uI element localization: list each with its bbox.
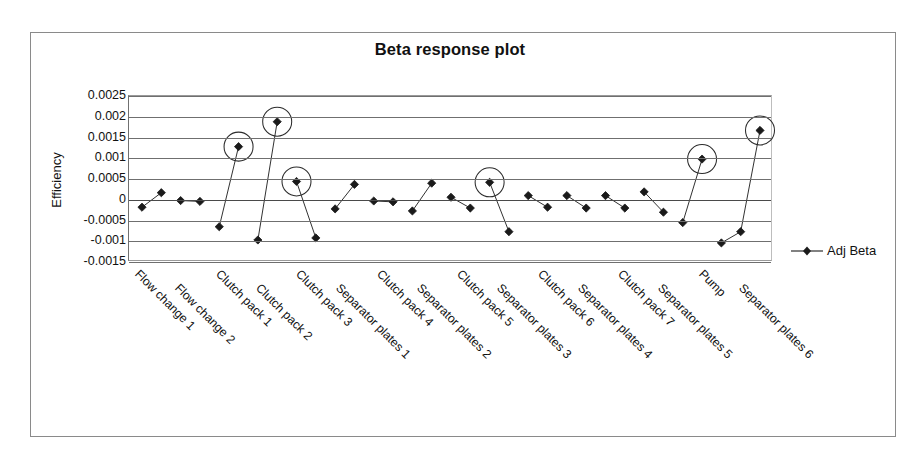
data-point-marker <box>138 203 146 211</box>
plot-area <box>128 95 772 261</box>
y-tick-label: -0.0005 <box>64 214 126 226</box>
series-segment <box>412 183 431 211</box>
series-segment <box>335 184 354 208</box>
x-axis-tick-labels: Flow change 1Flow change 2Clutch pack 1C… <box>128 261 772 411</box>
y-tick-label: 0.0005 <box>64 172 126 184</box>
y-axis-title-label: Efficiency <box>49 152 64 207</box>
legend-label-adj-beta: Adj Beta <box>826 243 876 258</box>
data-point-marker <box>466 204 474 212</box>
data-point-marker <box>601 192 609 200</box>
data-point-marker <box>756 126 764 134</box>
y-tick-label: 0 <box>64 193 126 205</box>
y-tick-label: -0.001 <box>64 234 126 246</box>
chart-title: Beta response plot <box>128 40 772 59</box>
gridline <box>129 221 771 222</box>
legend-marker-icon <box>790 245 824 257</box>
series-segment <box>741 130 760 231</box>
data-point-marker <box>737 228 745 236</box>
data-point-marker <box>331 205 339 213</box>
y-tick-label: -0.0015 <box>64 255 126 267</box>
data-point-marker <box>408 207 416 215</box>
series-segment <box>258 122 277 240</box>
x-tick-label: Pump <box>696 267 728 299</box>
gridline <box>129 138 771 139</box>
data-point-marker <box>428 179 436 187</box>
data-point-marker <box>582 204 590 212</box>
y-tick-label: 0.0025 <box>64 89 126 101</box>
data-point-marker <box>563 192 571 200</box>
series-segment <box>490 182 509 231</box>
gridline <box>129 179 771 180</box>
gridline <box>129 96 771 97</box>
data-point-marker <box>157 189 165 197</box>
data-point-marker <box>621 204 629 212</box>
data-point-marker <box>254 236 262 244</box>
data-point-marker <box>350 180 358 188</box>
gridline <box>129 241 771 242</box>
y-tick-label: 0.001 <box>64 151 126 163</box>
y-axis-tick-labels: 0.00250.0020.00150.0010.00050-0.0005-0.0… <box>64 86 126 270</box>
series-segment <box>644 192 663 212</box>
series-segment <box>297 181 316 237</box>
data-point-marker <box>215 223 223 231</box>
y-tick-label: 0.0015 <box>64 131 126 143</box>
chart-figure: Beta response plot Efficiency 0.00250.00… <box>0 0 923 457</box>
series-segment <box>683 159 702 222</box>
gridline <box>129 158 771 159</box>
series-segment <box>606 196 625 208</box>
data-point-marker <box>234 143 242 151</box>
data-point-marker <box>543 203 551 211</box>
chart-legend: Adj Beta <box>790 243 876 258</box>
data-point-marker <box>196 197 204 205</box>
gridline <box>129 117 771 118</box>
y-tick-label: 0.002 <box>64 110 126 122</box>
series-segment <box>567 196 586 208</box>
gridline-zero <box>129 200 771 201</box>
data-point-marker <box>370 197 378 205</box>
data-point-marker <box>717 239 725 247</box>
data-point-marker <box>273 118 281 126</box>
data-point-marker <box>505 228 513 236</box>
data-point-marker <box>524 192 532 200</box>
